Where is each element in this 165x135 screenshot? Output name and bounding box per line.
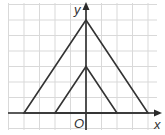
x-axis-arrow-icon [154, 110, 162, 117]
coordinate-diagram: y x O [0, 0, 165, 135]
grid [8, 3, 157, 130]
x-axis-label: x [153, 117, 161, 132]
y-axis-arrow-icon [83, 2, 90, 10]
origin-label: O [74, 116, 84, 131]
